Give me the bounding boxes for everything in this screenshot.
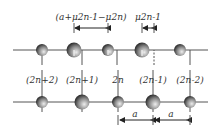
atom-label: (2n+1)	[66, 75, 98, 85]
atom-label: (2n-1)	[139, 75, 167, 85]
atom-label: (2n-2)	[176, 75, 204, 85]
atom-label: (2n+2)	[26, 75, 58, 85]
large-displacement-label: (a+μ2n-1−μ2n)	[56, 12, 127, 22]
spacing-label: a	[132, 109, 137, 119]
small-displacement-label: μ2n-1	[135, 12, 161, 22]
atom-label: 2n	[111, 75, 124, 85]
displaced-chain	[13, 23, 208, 65]
spacing-label: a	[168, 109, 173, 119]
lattice-diagram: (2n-2) (2n-1) 2n (2n+1) (2n+2) a a μ2n-1…	[0, 0, 223, 135]
